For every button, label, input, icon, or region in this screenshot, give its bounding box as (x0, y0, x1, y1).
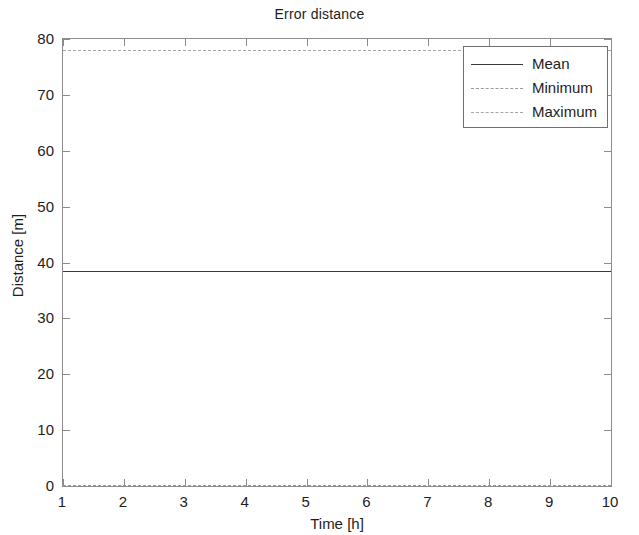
y-axis-tick-label: 80 (10, 30, 54, 47)
legend-label-mean: Mean (532, 56, 570, 72)
x-axis-tick-label: 10 (602, 493, 619, 510)
x-axis-tick-label: 5 (301, 493, 309, 510)
legend-item-minimum[interactable]: Minimum (464, 76, 607, 100)
x-axis-title: Time [h] (62, 515, 612, 532)
chart-figure: Error distance 01020304050607080 1234567… (0, 0, 639, 535)
x-axis-tick-label: 4 (240, 493, 248, 510)
y-axis-tick-label: 70 (10, 85, 54, 102)
y-axis-tick-label: 10 (10, 421, 54, 438)
legend-line-sample-maximum (471, 112, 523, 113)
x-axis-tick-label: 9 (545, 493, 553, 510)
legend-item-mean[interactable]: Mean (464, 52, 607, 76)
legend-line-sample-mean (471, 64, 523, 65)
x-axis-tick-label: 8 (484, 493, 492, 510)
x-axis-tick-label: 2 (119, 493, 127, 510)
y-axis-title: Distance [m] (9, 146, 26, 366)
y-axis-tick-label: 0 (10, 477, 54, 494)
chart-title: Error distance (0, 6, 639, 22)
legend-line-sample-minimum (471, 88, 523, 89)
x-axis-tick-labels: 12345678910 (62, 493, 612, 515)
x-axis-tick-label: 1 (58, 493, 66, 510)
x-axis-tick-label: 3 (180, 493, 188, 510)
y-axis-tick-label: 20 (10, 365, 54, 382)
legend-label-minimum: Minimum (532, 80, 593, 96)
legend-label-maximum: Maximum (532, 104, 597, 120)
legend-item-maximum[interactable]: Maximum (464, 100, 607, 124)
x-axis-tick-label: 7 (423, 493, 431, 510)
chart-legend: Mean Minimum Maximum (463, 46, 608, 128)
x-axis-tick-label: 6 (362, 493, 370, 510)
